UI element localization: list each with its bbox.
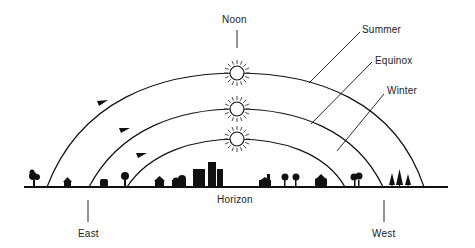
pine-tree-icon [389,169,411,187]
house-icon [100,179,108,187]
noon-label: Noon [222,14,247,25]
equinox-label: Equinox [375,55,413,66]
east-label: East [78,228,99,239]
house-icon [315,174,327,187]
sun-path-diagram: Noon Summer Equinox Winter Horizon East … [0,0,475,248]
sun-icon-equinox [224,96,250,122]
tree-icon [29,170,40,188]
house-icon [259,174,271,187]
summer-arrow-icon [97,100,108,106]
building-icon [193,162,223,187]
summer-path-arc [47,73,424,187]
direction-arrows [97,100,147,158]
diagram-graphics [0,0,475,248]
house-icon [172,175,186,187]
skyline-silhouettes [29,162,411,187]
summer-leader-line [309,32,360,83]
horizon-label: Horizon [217,194,253,205]
equinox-arrow-icon [119,128,130,133]
summer-label: Summer [362,24,401,35]
west-label: West [372,228,395,239]
house-icon [154,176,165,187]
house-icon [63,177,72,187]
winter-leader-line [337,94,384,151]
sun-icon-winter [224,126,250,152]
winter-arrow-icon [136,153,147,158]
tree-icon [351,173,363,188]
winter-label: Winter [387,85,417,96]
tree-icon [282,174,300,188]
sun-icon-summer [224,60,250,86]
